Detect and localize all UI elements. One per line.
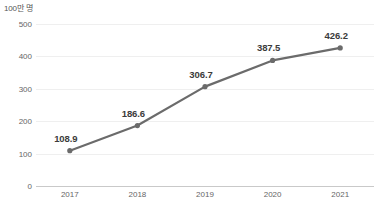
x-axis-tick-label: 2019 — [196, 190, 214, 199]
data-point-marker — [135, 123, 140, 128]
data-point-value-label: 186.6 — [122, 108, 145, 119]
series-line — [70, 48, 340, 151]
data-point-marker — [270, 58, 275, 63]
y-axis-tick-label: 500 — [2, 20, 32, 29]
y-axis-unit-label: 100만 명 — [4, 2, 32, 13]
data-point-marker — [67, 148, 72, 153]
x-axis-tick-label: 2018 — [128, 190, 146, 199]
data-point-marker — [338, 45, 343, 50]
x-axis-tick-label: 2021 — [331, 190, 349, 199]
data-point-value-label: 387.5 — [257, 42, 280, 53]
data-point-marker — [202, 84, 207, 89]
line-chart: 100만 명 0100200300400500 2017201820192020… — [0, 0, 380, 216]
y-axis-tick-label: 0 — [2, 182, 32, 191]
y-axis-tick-label: 100 — [2, 149, 32, 158]
data-point-value-label: 426.2 — [325, 30, 348, 41]
data-series-line — [36, 24, 374, 186]
y-axis-tick-label: 300 — [2, 84, 32, 93]
data-point-value-label: 108.9 — [54, 133, 77, 144]
plot-area: 0100200300400500 20172018201920202021 10… — [36, 24, 374, 186]
x-axis-baseline — [36, 186, 374, 187]
x-axis-tick-label: 2017 — [61, 190, 79, 199]
data-point-value-label: 306.7 — [189, 69, 212, 80]
x-axis-tick-label: 2020 — [264, 190, 282, 199]
y-axis-tick-label: 400 — [2, 52, 32, 61]
y-axis-tick-label: 200 — [2, 117, 32, 126]
